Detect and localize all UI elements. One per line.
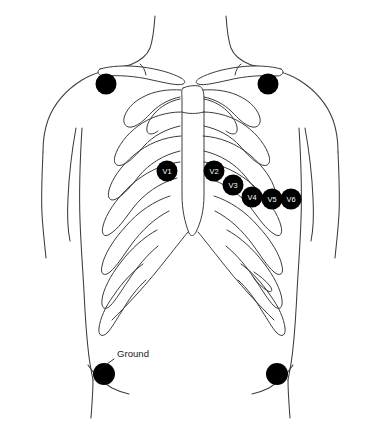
electrode-right-arm[interactable] [96,74,117,95]
electrode-v6-label: V6 [287,195,296,204]
ecg-electrode-diagram: V1 V2 V3 V4 V5 V6 [0,0,381,424]
electrode-v3-label: V3 [229,181,238,190]
electrode-v1-label: V1 [163,167,172,176]
electrode-v4-label: V4 [248,193,257,202]
electrode-v5[interactable]: V5 [262,189,283,210]
electrode-v6[interactable]: V6 [281,189,302,210]
electrode-v1[interactable]: V1 [157,161,178,182]
ecg-diagram-canvas: V1 V2 V3 V4 V5 V6 [0,0,381,424]
electrode-v2-label: V2 [210,167,219,176]
electrode-v5-label: V5 [268,195,277,204]
electrode-left-arm[interactable] [258,74,279,95]
electrode-v4[interactable]: V4 [242,187,263,208]
electrode-v2[interactable]: V2 [204,161,225,182]
sternum-body [182,86,204,236]
sternum-group [182,86,204,236]
ground-annotation-label: Ground [117,348,149,359]
electrode-left-leg[interactable] [266,363,288,385]
electrode-v3[interactable]: V3 [223,175,244,196]
